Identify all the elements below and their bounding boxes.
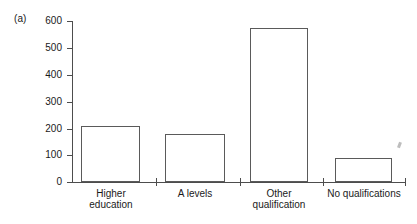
bar-no-qualifications — [335, 158, 392, 182]
x-tick-mark — [240, 178, 241, 186]
y-tick-mark — [67, 21, 73, 22]
x-category-label-higher-education: Higher education — [76, 188, 146, 210]
y-tick-label-text: 300 — [32, 97, 62, 107]
y-tick-label-600: 600 — [32, 16, 62, 26]
y-tick-mark — [67, 129, 73, 130]
bar-chart-plot-area: 0 100 200 300 400 500 600 — [0, 0, 417, 224]
y-tick-label-500: 500 — [32, 43, 62, 53]
x-axis-line — [72, 182, 406, 183]
y-tick-label-text: 600 — [32, 16, 62, 26]
y-tick-label-text: 500 — [32, 43, 62, 53]
y-tick-label-0: 0 — [32, 177, 62, 187]
y-tick-mark — [67, 102, 73, 103]
y-tick-mark — [67, 155, 73, 156]
y-tick-label-100: 100 — [32, 150, 62, 160]
y-tick-label-300: 300 — [32, 97, 62, 107]
x-tick-mark — [323, 178, 324, 186]
y-tick-label-text: 100 — [32, 150, 62, 160]
y-tick-label-text: 400 — [32, 70, 62, 80]
x-tick-mark — [156, 178, 157, 186]
y-tick-label-400: 400 — [32, 70, 62, 80]
y-tick-label-200: 200 — [32, 124, 62, 134]
y-tick-label-text: 200 — [32, 124, 62, 134]
scan-artifact-mark — [397, 142, 402, 149]
bar-higher-education — [81, 126, 140, 182]
bar-a-levels — [165, 134, 225, 182]
y-tick-mark — [67, 182, 73, 183]
y-tick-mark — [67, 75, 73, 76]
y-tick-mark — [67, 48, 73, 49]
x-category-label-no-qualifications: No qualifications — [321, 188, 407, 199]
x-tick-mark — [405, 178, 406, 186]
bar-other-qualification — [250, 28, 308, 182]
y-tick-label-text: 0 — [32, 177, 62, 187]
x-category-label-a-levels: A levels — [160, 188, 230, 199]
x-category-label-other-qualification: Other qualification — [244, 188, 314, 210]
figure-panel: (a) 0 100 200 300 400 500 — [0, 0, 417, 224]
